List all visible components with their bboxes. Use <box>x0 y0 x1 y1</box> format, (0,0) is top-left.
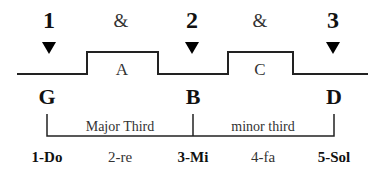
beat-3-label: 3 <box>327 8 339 32</box>
degree-4-label: 4-fa <box>251 150 275 165</box>
offbeat-1-label: & <box>114 11 129 30</box>
note-b-label: B <box>186 86 201 108</box>
beat-interval-diagram: 1 2 3 & & A C G B D Major Third minor th… <box>0 0 380 177</box>
degree-3-label: 3-Mi <box>178 150 209 165</box>
block-c-label: C <box>254 61 265 78</box>
beat-1-marker-icon <box>42 42 56 54</box>
beat-3-marker-icon <box>326 42 340 54</box>
degree-1-label: 1-Do <box>32 150 63 165</box>
degree-2-label: 2-re <box>108 150 132 165</box>
degree-5-label: 5-Sol <box>318 150 351 165</box>
rhythm-waveform <box>17 52 368 74</box>
block-a-label: A <box>116 61 128 78</box>
interval-major-third-label: Major Third <box>86 120 155 134</box>
note-g-label: G <box>38 86 55 108</box>
beat-2-label: 2 <box>186 8 198 32</box>
beat-1-label: 1 <box>43 8 55 32</box>
offbeat-2-label: & <box>253 11 268 30</box>
note-d-label: D <box>326 86 342 108</box>
interval-minor-third-label: minor third <box>231 120 294 134</box>
beat-2-marker-icon <box>185 42 199 54</box>
